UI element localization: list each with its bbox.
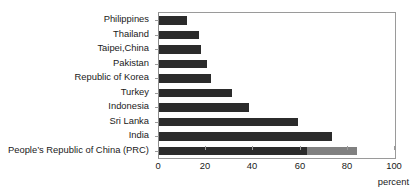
y-axis-tick [155,136,159,137]
bar-segment-primary [159,60,207,69]
category-label: Taipei,China [97,41,149,56]
bar-row [159,100,395,115]
x-axis-tick-label: 60 [295,160,305,171]
y-axis-tick [155,20,159,21]
bar-row [159,42,395,57]
bar-segment-primary [159,16,187,25]
bar-chart: PhilippinesThailandTaipei,ChinaPakistanR… [0,0,411,195]
bar-segment-primary [159,103,249,112]
bar-row [159,115,395,130]
bar-segment-primary [159,118,298,127]
bar [159,31,199,40]
category-label: Thailand [113,27,149,42]
y-axis-tick [155,64,159,65]
bar [159,60,207,69]
category-axis: PhilippinesThailandTaipei,ChinaPakistanR… [0,12,153,157]
bar-row [159,28,395,43]
bar-row [159,86,395,101]
bar-segment-primary [159,31,199,40]
x-axis-tick-label: 80 [342,160,352,171]
bar [159,132,332,141]
x-axis-tick [205,146,206,150]
bar-row [159,71,395,86]
x-axis-tick [300,146,301,150]
bar [159,118,298,127]
category-label: Pakistan [113,56,149,71]
category-label: India [129,128,149,143]
y-axis-tick [155,78,159,79]
y-axis-tick [155,93,159,94]
bar-segment-primary [159,147,307,156]
category-label: Sri Lanka [109,114,149,129]
bar [159,103,249,112]
category-label: People’s Republic of China (PRC) [8,143,149,158]
x-axis-tick [347,146,348,150]
bar-segment-primary [159,89,232,98]
y-axis-tick [155,151,159,152]
bar [159,147,357,156]
bar [159,16,187,25]
category-label: Indonesia [108,99,149,114]
bar-segment-primary [159,45,201,54]
x-axis-tick [158,146,159,150]
y-axis-tick [155,49,159,50]
bar-segment-primary [159,74,211,83]
y-axis-tick [155,122,159,123]
x-axis-tick [394,146,395,150]
category-label: Republic of Korea [74,70,149,85]
category-label: Turkey [121,85,149,100]
bar [159,89,232,98]
bar [159,74,211,83]
bar-row [159,144,395,159]
plot-area [158,12,396,159]
bar-row [159,57,395,72]
x-axis-tick-label: 0 [155,160,160,171]
x-axis-title: percent [378,176,409,187]
x-axis-tick [252,146,253,150]
bar-row [159,13,395,28]
y-axis-tick [155,107,159,108]
bar [159,45,201,54]
category-label: Philippines [104,12,149,27]
bar-segment-secondary [307,147,358,156]
bars-layer [159,13,395,158]
x-axis-tick-label: 20 [200,160,210,171]
y-axis-tick [155,35,159,36]
bar-row [159,129,395,144]
x-axis-tick-label: 40 [247,160,257,171]
x-axis-tick-label: 100 [386,160,402,171]
bar-segment-primary [159,132,332,141]
